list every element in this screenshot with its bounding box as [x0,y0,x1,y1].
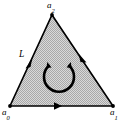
vertex-label-a2: a2 [47,1,55,10]
vertex-label-a1: a1 [110,108,118,117]
vertex-label-a1-subscript: 1 [115,114,118,121]
vertex-label-a0: a0 [2,108,10,117]
vertex-label-a2-subscript: 2 [52,7,55,14]
edge-label-L: L [19,50,24,60]
vertex-label-a0-base: a [2,107,7,117]
figure-container: a2 a0 a1 L [0,0,125,123]
vertex-label-a1-base: a [110,107,115,117]
triangle-diagram-svg [0,0,125,123]
vertex-label-a2-base: a [47,0,52,10]
vertex-label-a0-subscript: 0 [7,114,10,121]
